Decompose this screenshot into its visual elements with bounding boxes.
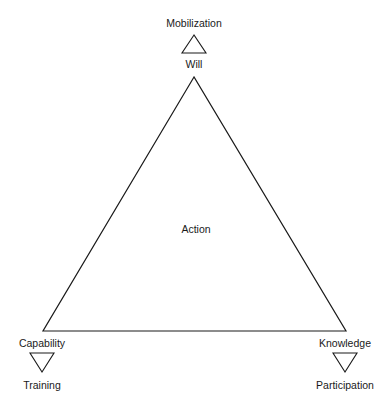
- action-label: Action: [181, 224, 210, 235]
- top-arrow-up-triangle-icon: [182, 35, 206, 53]
- training-label: Training: [23, 380, 61, 391]
- knowledge-label: Knowledge: [319, 338, 371, 349]
- participation-label: Participation: [316, 380, 374, 391]
- mobilization-label: Mobilization: [166, 18, 221, 29]
- left-arrow-down-triangle-icon: [30, 353, 54, 372]
- will-label: Will: [186, 59, 203, 70]
- main-triangle: [43, 77, 346, 331]
- capability-label: Capability: [19, 338, 65, 349]
- right-arrow-down-triangle-icon: [333, 353, 357, 372]
